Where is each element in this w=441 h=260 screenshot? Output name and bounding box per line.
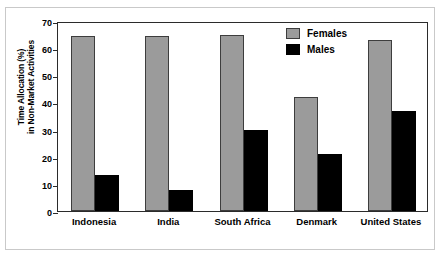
bar-males-denmark [318, 154, 342, 211]
x-axis-label: India [157, 216, 179, 227]
bar-females-denmark [294, 97, 318, 211]
y-axis-tick-label: 50 [38, 72, 52, 82]
y-axis-tick-label: 30 [38, 127, 52, 137]
y-axis-title-line-2: in Non-Market Activities [26, 40, 37, 134]
legend-item-females: Females [286, 26, 347, 40]
y-axis-tick-mark [53, 23, 58, 24]
y-axis-tick-label: 0 [38, 208, 52, 218]
y-axis-tick-mark [53, 77, 58, 78]
y-axis-tick-mark [53, 213, 58, 214]
y-axis-tick-mark [53, 50, 58, 51]
legend-label-females: Females [307, 28, 347, 39]
y-axis-tick-label: 40 [38, 99, 52, 109]
figure: Time Allocation (%) in Non-Market Activi… [0, 0, 441, 260]
bar-females-south-africa [220, 35, 244, 211]
bar-males-india [169, 190, 193, 211]
y-axis-tick-label: 70 [38, 18, 52, 28]
y-axis-tick-mark [53, 186, 58, 187]
bar-males-south-africa [244, 130, 268, 211]
plot-area: 010203040506070 Females Males [57, 22, 428, 212]
bar-males-united-states [392, 111, 416, 211]
chart-legend: Females Males [286, 26, 347, 58]
bar-females-indonesia [71, 36, 95, 211]
y-axis-tick-mark [53, 132, 58, 133]
y-axis-title-line-1: Time Allocation (%) [16, 49, 27, 126]
legend-label-males: Males [307, 44, 335, 55]
legend-swatch-females [286, 28, 300, 39]
y-axis-tick-label: 20 [38, 154, 52, 164]
y-axis-title: Time Allocation (%) in Non-Market Activi… [11, 17, 41, 157]
x-axis-label: Indonesia [72, 216, 116, 227]
x-axis-label: United States [361, 216, 422, 227]
bar-females-united-states [368, 40, 392, 211]
bar-males-indonesia [95, 175, 119, 211]
legend-swatch-males [286, 44, 300, 55]
x-axis-label: Denmark [296, 216, 337, 227]
bar-females-india [145, 36, 169, 211]
x-axis-label: South Africa [214, 216, 270, 227]
y-axis-tick-mark [53, 104, 58, 105]
y-axis-tick-mark [53, 159, 58, 160]
y-axis-tick-label: 10 [38, 181, 52, 191]
y-axis-tick-label: 60 [38, 45, 52, 55]
legend-item-males: Males [286, 42, 347, 56]
